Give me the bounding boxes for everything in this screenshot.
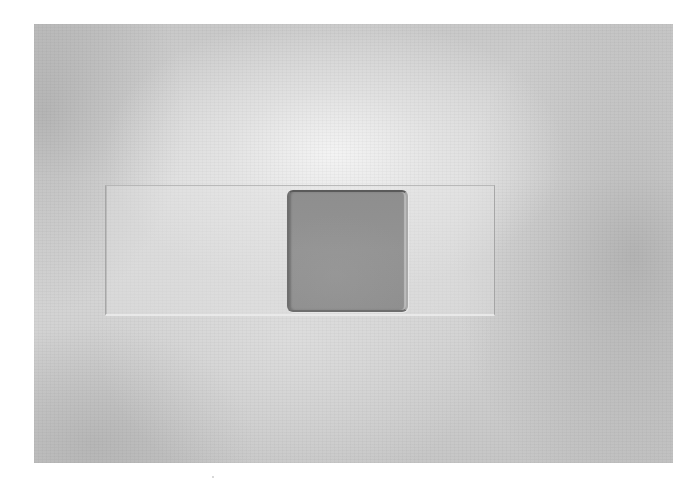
square-film-sample [287, 190, 408, 312]
scan-speck [212, 476, 214, 478]
figure-canvas [0, 0, 699, 486]
photograph [34, 24, 673, 463]
